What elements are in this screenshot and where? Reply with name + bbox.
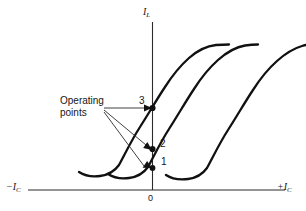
x-axis-label-left-symbol: −I bbox=[6, 181, 16, 192]
y-axis-label-subscript: L bbox=[146, 11, 150, 19]
x-axis-label-left-subscript: C bbox=[16, 186, 21, 194]
operating-points-figure: IL −IC +IC 0 Operating points 3 2 1 bbox=[0, 0, 306, 211]
operating-point-label-3: 3 bbox=[139, 95, 145, 107]
x-axis-label-right-subscript: C bbox=[287, 186, 292, 194]
operating-point-label-2: 2 bbox=[160, 138, 166, 150]
curve-3 bbox=[166, 45, 306, 179]
callout-line-2: points bbox=[60, 107, 104, 119]
operating-points-callout: Operating points bbox=[60, 95, 104, 118]
operating-point-dot-2 bbox=[149, 146, 155, 152]
origin-label: 0 bbox=[148, 193, 153, 203]
operating-point-label-1: 1 bbox=[161, 156, 167, 168]
x-axis-label-left: −IC bbox=[6, 181, 21, 194]
operating-point-dot-1 bbox=[150, 165, 156, 171]
x-axis-label-right-symbol: +I bbox=[277, 181, 287, 192]
operating-point-dot-3 bbox=[149, 105, 155, 111]
y-axis-label: IL bbox=[143, 6, 150, 19]
callout-line-1: Operating bbox=[60, 95, 104, 107]
figure-canvas bbox=[0, 0, 306, 211]
x-axis-label-right: +IC bbox=[277, 181, 292, 194]
